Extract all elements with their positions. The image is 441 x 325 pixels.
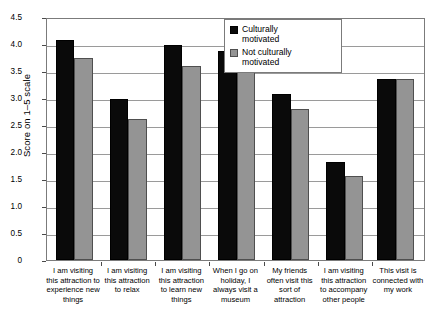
y-axis-tick-label: 2.5 (2, 122, 22, 130)
legend-swatch-icon-black (230, 26, 238, 34)
x-axis-category-label: When I go onholiday, Ialways visit amuse… (208, 266, 262, 304)
x-axis-category-label: I am visitingthis attractionto relax (100, 266, 154, 295)
figure: Score on 1–5 scale 00.51.01.52.02.53.03.… (0, 0, 441, 325)
y-axis-tick-label: 0.5 (2, 230, 22, 238)
bar (56, 40, 75, 260)
legend-label-not-culturally-motivated: Not culturallymotivated (242, 47, 292, 67)
legend-item-culturally-motivated: Culturallymotivated (230, 24, 336, 44)
chart-legend: Culturallymotivated Not culturallymotiva… (224, 19, 342, 73)
y-axis-tick-label: 1.0 (2, 203, 22, 211)
x-axis-category-label: I am visitingthis attraction toexperienc… (46, 266, 100, 304)
y-axis-title: Score on 1–5 scale (21, 36, 32, 196)
y-axis-tick-label: 4.0 (2, 41, 22, 49)
y-axis-tick-label: 3.0 (2, 95, 22, 103)
x-axis-category-label: I am visitingthis attractionto learn new… (154, 266, 208, 304)
legend-item-not-culturally-motivated: Not culturallymotivated (230, 47, 336, 67)
bar (74, 58, 93, 261)
x-axis-category-labels: I am visitingthis attraction toexperienc… (46, 266, 425, 314)
y-axis-tick-label: 3.5 (2, 68, 22, 76)
y-axis-tick-label: 2.0 (2, 149, 22, 157)
bar (182, 66, 201, 260)
legend-swatch-icon-gray (230, 49, 238, 57)
bar (164, 45, 183, 260)
x-axis-category-label: My friendsoften visit thissort ofattract… (263, 266, 317, 304)
bar (272, 94, 291, 260)
bar (110, 99, 129, 261)
y-axis-tick-mark (42, 261, 46, 262)
bar (237, 61, 256, 260)
bar (218, 51, 237, 261)
x-axis-category-label: This visit isconnected withmy work (371, 266, 425, 295)
bar (128, 119, 147, 261)
bar (291, 109, 310, 260)
y-axis-tick-label: 0 (2, 257, 22, 265)
y-axis-tick-label: 1.5 (2, 176, 22, 184)
bar (345, 176, 364, 260)
bar (396, 79, 415, 260)
y-axis-tick-label: 4.5 (2, 14, 22, 22)
x-axis-category-label: I am visitingthis attractionto accompany… (317, 266, 371, 304)
legend-label-culturally-motivated: Culturallymotivated (242, 24, 279, 44)
bar (326, 162, 345, 260)
bar (377, 79, 396, 260)
